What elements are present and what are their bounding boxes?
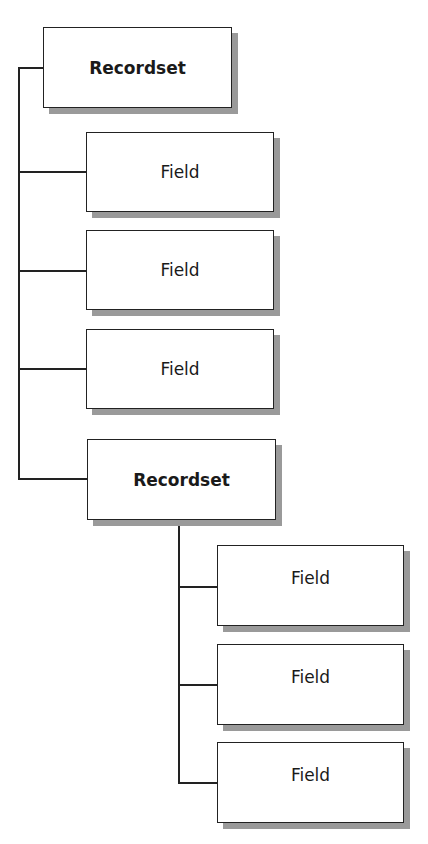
- root-vertical-connector: [18, 67, 20, 479]
- field-label: Field: [291, 568, 330, 588]
- recordset-child-box: Recordset: [87, 439, 276, 520]
- child-vertical-connector: [178, 519, 180, 783]
- nested-field-box-1: Field: [217, 545, 404, 626]
- nested-field-box-3: Field: [217, 742, 404, 823]
- field-label: Field: [291, 765, 330, 785]
- field-label: Field: [160, 359, 199, 379]
- field-box-3: Field: [86, 329, 274, 409]
- connector-nested-field-1: [178, 586, 218, 588]
- connector-field-3: [18, 368, 87, 370]
- recordset-root-label: Recordset: [89, 58, 186, 78]
- field-label: Field: [160, 162, 199, 182]
- connector-recordset-2: [18, 478, 87, 480]
- field-box-1: Field: [86, 132, 274, 212]
- field-box-2: Field: [86, 230, 274, 310]
- nested-field-box-2: Field: [217, 644, 404, 725]
- connector-field-2: [18, 270, 87, 272]
- field-label: Field: [160, 260, 199, 280]
- connector-nested-field-2: [178, 684, 218, 686]
- connector-field-1: [18, 171, 87, 173]
- root-stub-connector: [18, 67, 44, 69]
- recordset-root-box: Recordset: [43, 27, 232, 108]
- connector-nested-field-3: [178, 782, 218, 784]
- recordset-child-label: Recordset: [133, 470, 230, 490]
- field-label: Field: [291, 667, 330, 687]
